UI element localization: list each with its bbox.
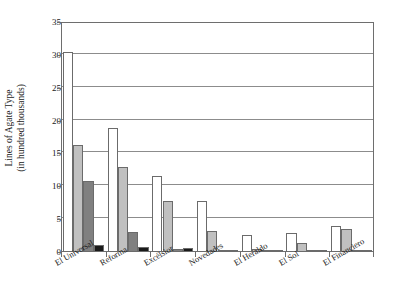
plot-area	[61, 22, 374, 252]
gridline	[62, 86, 373, 87]
y-axis-title: Lines of Agate Type (in hundred thousand…	[0, 0, 30, 255]
gridline	[62, 151, 373, 152]
x-category-label: El Sol	[277, 248, 300, 267]
gridline	[62, 184, 373, 185]
x-tick-mark	[373, 252, 374, 257]
gridline	[62, 217, 373, 218]
y-axis-title-line-1: Lines of Agate Type	[3, 84, 15, 172]
x-axis: El UniversalReformaExcélsiorNovedadesEl …	[61, 252, 374, 301]
gridline	[62, 119, 373, 120]
chart-figure: Lines of Agate Type (in hundred thousand…	[0, 0, 395, 301]
gridline	[62, 53, 373, 54]
y-axis-title-line-2: (in hundred thousands)	[15, 84, 27, 172]
